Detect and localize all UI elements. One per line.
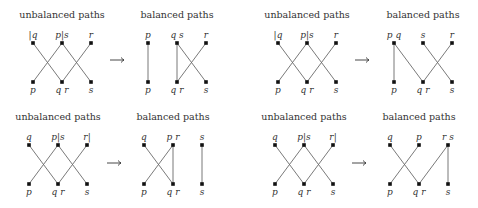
bottom-node xyxy=(60,80,64,84)
bottom-node xyxy=(450,80,454,84)
unbalanced-paths-panel: unbalanced pathsqpp|sq rr|s xyxy=(15,111,101,197)
bottom-node xyxy=(171,182,175,186)
path-edge xyxy=(419,145,448,184)
bottom-node-label: p xyxy=(387,187,393,197)
balanced-paths-title: balanced paths xyxy=(140,9,213,20)
balanced-paths-panel: balanced pathsp qpsq rrs xyxy=(386,9,459,95)
top-node xyxy=(89,41,93,45)
top-node-label: s xyxy=(421,30,426,40)
unbalanced-paths-panel: unbalanced paths|qpp|sq rrs xyxy=(264,9,350,95)
path-balancing-diagram: unbalanced paths|qpp|sq rrsbalanced path… xyxy=(0,0,478,208)
top-node xyxy=(146,41,150,45)
transform-arrow-icon xyxy=(352,161,366,166)
top-node-label: p r xyxy=(167,132,181,142)
top-node xyxy=(142,143,146,147)
top-node xyxy=(331,143,335,147)
top-node xyxy=(60,41,64,45)
bottom-node-label: s xyxy=(450,85,455,95)
path-edge xyxy=(394,43,423,82)
top-node xyxy=(31,41,35,45)
balanced-paths-title: balanced paths xyxy=(382,111,455,122)
top-node xyxy=(334,41,338,45)
unbalanced-paths-title: unbalanced paths xyxy=(15,111,101,122)
top-node-label: r xyxy=(204,30,209,40)
top-node xyxy=(200,143,204,147)
bottom-node-label: p xyxy=(141,187,147,197)
bottom-node-label: p xyxy=(145,85,151,95)
bottom-node-label: s xyxy=(204,85,209,95)
unbalanced-paths-panel: unbalanced paths|qpp|sq rrs xyxy=(19,9,105,95)
bottom-node-label: s xyxy=(446,187,451,197)
bottom-node-label: p xyxy=(272,187,278,197)
bottom-node-label: p xyxy=(30,85,36,95)
top-node-label: |q xyxy=(274,30,283,41)
bottom-node xyxy=(331,182,335,186)
top-node-label: r xyxy=(334,30,339,40)
balanced-paths-title: balanced paths xyxy=(386,9,459,20)
bottom-node-label: p xyxy=(391,85,397,95)
bottom-node-label: q r xyxy=(171,85,185,95)
top-node xyxy=(171,143,175,147)
top-node xyxy=(392,41,396,45)
top-node-label: r s xyxy=(442,132,454,142)
top-node xyxy=(273,143,277,147)
bottom-node xyxy=(89,80,93,84)
bottom-node-label: q r xyxy=(56,85,70,95)
unbalanced-paths-title: unbalanced paths xyxy=(264,9,350,20)
top-node-label: p|s xyxy=(300,30,314,41)
top-node xyxy=(175,41,179,45)
top-node xyxy=(276,41,280,45)
top-node xyxy=(85,143,89,147)
unbalanced-paths-title: unbalanced paths xyxy=(19,9,105,20)
balanced-paths-panel: balanced pathsqppq rr ss xyxy=(382,111,455,197)
bottom-node xyxy=(175,80,179,84)
top-node-label: r| xyxy=(83,132,90,143)
top-node xyxy=(204,41,208,45)
bottom-node-label: q r xyxy=(301,85,315,95)
bottom-node xyxy=(273,182,277,186)
bottom-node-label: p xyxy=(26,187,32,197)
top-node-label: p xyxy=(145,30,151,40)
unbalanced-paths-title: unbalanced paths xyxy=(261,111,347,122)
bottom-node-label: q r xyxy=(413,187,427,197)
bottom-node-label: q r xyxy=(298,187,312,197)
top-node xyxy=(450,41,454,45)
balanced-paths-panel: balanced pathsppq sq rrs xyxy=(140,9,213,95)
top-node-label: s xyxy=(200,132,205,142)
top-node xyxy=(421,41,425,45)
bottom-node xyxy=(421,80,425,84)
top-node-label: |q xyxy=(29,30,38,41)
bottom-node xyxy=(31,80,35,84)
transform-arrow-icon xyxy=(107,161,121,166)
top-node-label: p|s xyxy=(297,132,311,143)
top-node-label: p q xyxy=(387,30,402,40)
top-node-label: r| xyxy=(329,132,336,143)
bottom-node xyxy=(142,182,146,186)
bottom-node xyxy=(392,80,396,84)
bottom-node-label: q r xyxy=(417,85,431,95)
unbalanced-paths-panel: unbalanced pathsqpp|sq rr|s xyxy=(261,111,347,197)
bottom-node xyxy=(276,80,280,84)
transform-arrow-icon xyxy=(355,58,369,63)
bottom-node-label: s xyxy=(334,85,339,95)
bottom-node-label: s xyxy=(331,187,336,197)
top-node xyxy=(417,143,421,147)
top-node xyxy=(305,41,309,45)
top-node-label: r xyxy=(89,30,94,40)
top-node-label: p xyxy=(416,132,422,142)
top-node xyxy=(388,143,392,147)
bottom-node xyxy=(56,182,60,186)
top-node-label: q s xyxy=(170,30,184,40)
bottom-node-label: q r xyxy=(167,187,181,197)
bottom-node xyxy=(334,80,338,84)
top-node-label: r xyxy=(450,30,455,40)
bottom-node xyxy=(85,182,89,186)
top-node-label: q xyxy=(26,132,32,142)
top-node-label: p|s xyxy=(51,132,65,143)
top-node-label: p|s xyxy=(55,30,69,41)
bottom-node-label: s xyxy=(200,187,205,197)
top-node xyxy=(302,143,306,147)
balanced-paths-title: balanced paths xyxy=(136,111,209,122)
bottom-node xyxy=(200,182,204,186)
bottom-node xyxy=(305,80,309,84)
